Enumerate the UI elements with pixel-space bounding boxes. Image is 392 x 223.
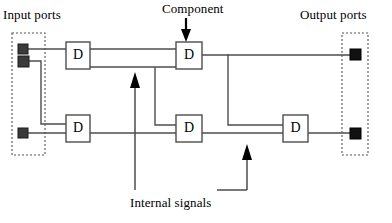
wire-d-top-middle-down-to-d-bottom-middle (155, 68, 176, 125)
internal-signals-arrow-right-head (242, 144, 252, 160)
output-port-1[interactable] (350, 49, 361, 60)
wire-input-port-2-to-d-bottom-left (28, 61, 66, 124)
diagram-canvas: D D D D D Input ports Output ports Compo… (0, 0, 392, 223)
component-label-d-top-left: D (66, 48, 90, 62)
block-diagram-svg (0, 0, 392, 223)
input-ports-label: Input ports (3, 7, 61, 23)
internal-signals-label: Internal signals (130, 195, 211, 211)
component-label-d-bottom-right: D (283, 121, 308, 135)
input-port-2[interactable] (18, 56, 29, 67)
component-label-d-bottom-middle: D (176, 121, 202, 135)
wire-branch-to-d-bottom-right (228, 55, 283, 125)
output-port-squares (350, 49, 361, 139)
output-port-2[interactable] (350, 128, 361, 139)
component-label-d-bottom-left: D (66, 121, 90, 135)
input-port-3[interactable] (18, 128, 28, 138)
component-label-d-top-middle: D (176, 48, 202, 62)
input-port-1[interactable] (18, 44, 28, 54)
component-label: Component (162, 1, 224, 17)
component-arrow-head (181, 29, 191, 42)
output-ports-label: Output ports (300, 7, 367, 23)
internal-signals-arrow-left-head (130, 72, 140, 88)
input-port-squares (18, 44, 29, 138)
